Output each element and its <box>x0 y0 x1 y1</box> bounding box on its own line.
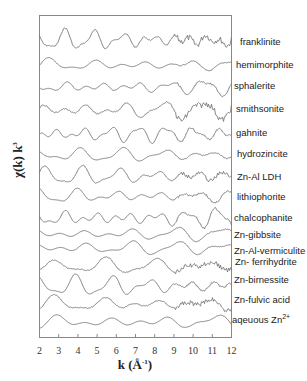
label-sphalerite: sphalerite <box>234 80 275 91</box>
label-lithiophorite: lithiophorite <box>237 191 286 202</box>
x-tick-label: 10 <box>188 345 198 356</box>
label-hemimorphite: hemimorphite <box>236 59 294 70</box>
spectrum-hemimorphite <box>40 58 232 71</box>
label-zn-fulvic-acid: Zn-fulvic acid <box>234 294 290 305</box>
x-tick-label: 6 <box>114 345 119 356</box>
x-tick-label: 9 <box>171 345 176 356</box>
label-smithsonite: smithsonite <box>236 103 284 114</box>
x-tick-label: 8 <box>152 345 157 356</box>
x-tick-label: 11 <box>207 345 217 356</box>
spectrum-zn-al-vermiculite <box>40 241 232 255</box>
spectrum-hydrozincite <box>40 147 232 161</box>
label-chalcophanite: chalcophanite <box>234 212 293 223</box>
x-tick-label: 2 <box>37 345 42 356</box>
plot-frame <box>40 16 232 338</box>
x-tick-label: 5 <box>95 345 100 356</box>
spectrum-aqeuous-zn2- <box>40 315 232 328</box>
label-franklinite: franklinite <box>240 36 281 47</box>
label-hydrozincite: hydrozincite <box>237 148 288 159</box>
spectrum-zn-ferrihydrite <box>40 257 232 274</box>
x-tick-label: 12 <box>227 345 237 356</box>
y-axis-label: χ(k) k3 <box>10 142 26 178</box>
x-axis-ticks <box>40 334 232 338</box>
spectrum-zn-al-ldh <box>40 165 232 183</box>
x-tick-label: 3 <box>56 345 61 356</box>
x-axis-label: k (Å-1) <box>118 357 152 373</box>
label-zn-al-vermiculite: Zn-Al-vermiculite <box>234 245 305 256</box>
spectrum-zn-birnessite <box>40 274 232 294</box>
label-gahnite: gahnite <box>236 127 267 138</box>
spectrum-zn-fulvic-acid <box>40 294 232 311</box>
spectrum-chalcophanite <box>40 208 232 230</box>
x-tick-label: 4 <box>75 345 80 356</box>
spectrum-gahnite <box>40 127 232 143</box>
label-zn-birnessite: Zn-birnessite <box>234 274 289 285</box>
label-zn-gibbsite: Zn-gibbsite <box>234 229 281 240</box>
spectrum-smithsonite <box>40 101 232 121</box>
x-tick-label: 7 <box>133 345 138 356</box>
spectrum-sphalerite <box>40 81 232 97</box>
label-znal-ldh: Zn-Al LDH <box>237 171 281 182</box>
spectrum-lithiophorite <box>40 188 232 203</box>
spectra-curves <box>40 28 232 328</box>
label-aqueous-zn: aqeuous Zn2+ <box>232 313 290 325</box>
spectrum-zn-gibbsite <box>40 227 232 241</box>
spectrum-franklinite <box>40 28 232 49</box>
label-zn-ferrihydrite: Zn- ferrihydrite <box>235 256 297 267</box>
